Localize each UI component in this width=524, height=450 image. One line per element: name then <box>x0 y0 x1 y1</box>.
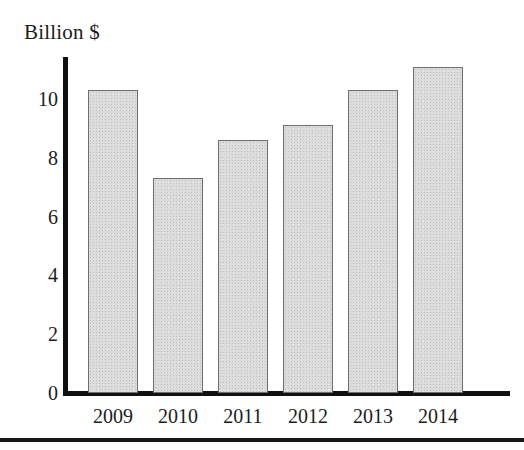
x-axis-tick-labels: 200920102011201220132014 <box>0 404 524 434</box>
x-axis-tick-2010: 2010 <box>146 404 210 428</box>
bar-2009 <box>88 90 138 393</box>
bar-2013 <box>348 90 398 393</box>
x-axis-tick-2009: 2009 <box>81 404 145 428</box>
x-axis-tick-2012: 2012 <box>276 404 340 428</box>
x-axis-tick-2014: 2014 <box>406 404 470 428</box>
x-axis-tick-2011: 2011 <box>211 404 275 428</box>
bar-series <box>0 0 524 450</box>
bar-2014 <box>413 67 463 393</box>
bar-2012 <box>283 125 333 393</box>
bar-chart-figure: Billion $ 0246810 2009201020112012201320… <box>0 0 524 450</box>
bar-2010 <box>153 178 203 393</box>
bottom-divider-rule <box>0 438 524 442</box>
x-axis-tick-2013: 2013 <box>341 404 405 428</box>
bar-2011 <box>218 140 268 393</box>
plot-area: Billion $ 0246810 2009201020112012201320… <box>0 0 524 450</box>
